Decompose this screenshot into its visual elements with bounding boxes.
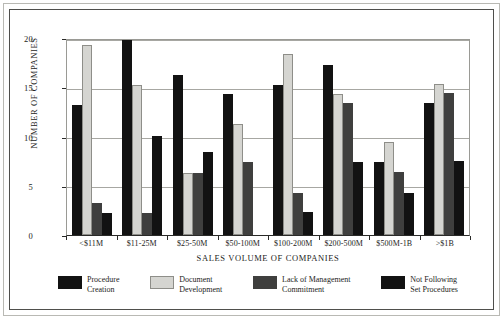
bar [384, 142, 394, 235]
bar [323, 65, 333, 235]
bar [374, 162, 384, 235]
y-tick-label-15: 15 [3, 83, 33, 93]
bar [173, 75, 183, 235]
bar [424, 103, 434, 235]
bar [132, 85, 142, 235]
legend-item: DocumentDevelopment [150, 275, 222, 294]
legend-label-line1: Not Following [410, 275, 458, 285]
x-tick-label-3: $50-100M [218, 239, 269, 248]
legend-swatch [381, 276, 405, 289]
bar [183, 173, 193, 235]
bar-group [67, 40, 117, 235]
bar [343, 103, 353, 235]
legend-item: ProcedureCreation [58, 275, 119, 294]
bar [193, 173, 203, 235]
bar [333, 94, 343, 235]
x-axis-tick-labels: <$11M$11-25M$25-50M$50-100M$100-200M$200… [66, 239, 470, 248]
legend-label-line1: Procedure [87, 275, 119, 285]
x-axis-title: SALES VOLUME OF COMPANIES [66, 253, 470, 263]
bar [353, 162, 363, 235]
bar [404, 193, 414, 235]
bar [122, 40, 132, 235]
x-tick-label-6: $500M-1B [369, 239, 420, 248]
legend-label: ProcedureCreation [87, 275, 119, 294]
bar [273, 85, 283, 235]
x-tick-label-5: $200-500M [319, 239, 370, 248]
legend-item: Lack of ManagementCommitment [253, 275, 350, 294]
legend-label-line1: Document [179, 275, 222, 285]
bar [102, 213, 112, 235]
legend-swatch [253, 276, 277, 289]
bar [223, 94, 233, 235]
bar [92, 203, 102, 235]
bar-groups [67, 40, 469, 235]
legend-label: Not FollowingSet Procedures [410, 275, 458, 294]
y-axis-title: NUMBER OF COMPANIES [29, 0, 39, 193]
bar-group [318, 40, 368, 235]
y-tick-label-10: 10 [3, 133, 33, 143]
legend-label: DocumentDevelopment [179, 275, 222, 294]
y-tick-label-0: 0 [3, 231, 33, 241]
x-tick-label-0: <$11M [66, 239, 117, 248]
legend-label-line1: Lack of Management [282, 275, 350, 285]
y-tick-label-20: 20 [3, 34, 33, 44]
bar [142, 213, 152, 235]
legend-swatch [150, 276, 174, 289]
bar [283, 54, 293, 235]
legend-label-line2: Creation [87, 285, 119, 295]
bar-group [419, 40, 469, 235]
bar-group [117, 40, 167, 235]
legend-label-line2: Development [179, 285, 222, 295]
bar [293, 193, 303, 235]
x-tick-label-2: $25-50M [167, 239, 218, 248]
x-tick-mark-8 [470, 236, 471, 240]
bar [152, 136, 162, 235]
legend-swatch [58, 276, 82, 289]
chart-legend: ProcedureCreationDocumentDevelopmentLack… [58, 275, 458, 294]
legend-item: Not FollowingSet Procedures [381, 275, 458, 294]
bar [72, 105, 82, 235]
bar-group [168, 40, 218, 235]
bar [434, 84, 444, 235]
bar [394, 172, 404, 235]
bar [444, 93, 454, 235]
legend-label-line2: Commitment [282, 285, 350, 295]
y-tick-label-5: 5 [3, 182, 33, 192]
bar [82, 45, 92, 235]
bar [233, 124, 243, 235]
bar [454, 161, 464, 235]
bar [303, 212, 313, 235]
chart-figure: NUMBER OF COMPANIES 05101520 <$11M$11-25… [0, 0, 503, 319]
bar [203, 152, 213, 235]
bar-group [218, 40, 268, 235]
legend-label: Lack of ManagementCommitment [282, 275, 350, 294]
x-tick-label-7: >$1B [420, 239, 471, 248]
x-tick-label-1: $11-25M [117, 239, 168, 248]
legend-label-line2: Set Procedures [410, 285, 458, 295]
bar-group [268, 40, 318, 235]
bar-group [369, 40, 419, 235]
x-tick-label-4: $100-200M [268, 239, 319, 248]
bar [243, 162, 253, 235]
plot-area [66, 39, 470, 236]
